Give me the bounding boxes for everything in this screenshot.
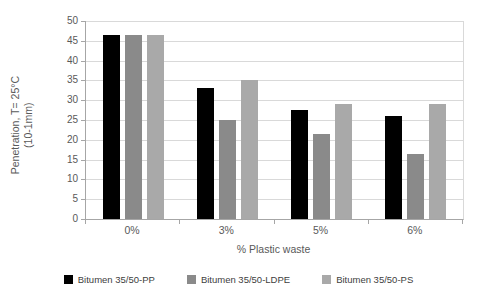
legend-label: Bitumen 35/50-PS	[336, 274, 413, 285]
legend-marker-icon	[64, 275, 73, 284]
bars-layer	[86, 21, 463, 219]
bar-Bitumen 35/50-PP-6%	[385, 116, 402, 219]
y-tick-label: 40	[44, 55, 78, 67]
legend-marker-icon	[187, 275, 196, 284]
y-tick-label: 10	[44, 173, 78, 185]
y-tick-label: 0	[44, 213, 78, 225]
legend-marker-icon	[322, 275, 331, 284]
bar-chart: Penetration, T= 25°C (10-1mm) 0510152025…	[0, 0, 477, 300]
bar-Bitumen 35/50-LDPE-6%	[407, 154, 424, 219]
legend-label: Bitumen 35/50-LDPE	[201, 274, 290, 285]
y-tick-label: 50	[44, 15, 78, 27]
y-axis-title-line2: (10-1mm)	[22, 45, 35, 205]
x-axis-category-labels: 0%3%5%6%	[85, 224, 462, 236]
y-tick-label: 35	[44, 74, 78, 86]
legend-item: Bitumen 35/50-PP	[64, 274, 155, 285]
plot-area	[85, 21, 464, 220]
bar-group-5%	[275, 21, 369, 219]
x-category-label: 6%	[368, 224, 462, 236]
bar-Bitumen 35/50-PS-3%	[241, 80, 258, 219]
bar-group-3%	[180, 21, 274, 219]
y-tick-label: 30	[44, 94, 78, 106]
y-tick-label: 25	[44, 114, 78, 126]
bar-Bitumen 35/50-PP-3%	[197, 88, 214, 219]
bar-Bitumen 35/50-PS-6%	[429, 104, 446, 219]
y-tick-label: 5	[44, 193, 78, 205]
bar-Bitumen 35/50-LDPE-0%	[125, 35, 142, 219]
x-tick-mark	[462, 220, 463, 224]
y-tick-label: 45	[44, 35, 78, 47]
y-tick-label: 20	[44, 134, 78, 146]
x-axis-title: % Plastic waste	[85, 243, 462, 255]
y-axis-title-line1: Penetration, T= 25°C	[9, 45, 22, 205]
bar-Bitumen 35/50-PP-0%	[103, 35, 120, 219]
x-category-label: 3%	[179, 224, 273, 236]
bar-group-6%	[369, 21, 463, 219]
bar-group-0%	[86, 21, 180, 219]
x-category-label: 0%	[85, 224, 179, 236]
y-tick-label: 15	[44, 154, 78, 166]
legend-item: Bitumen 35/50-LDPE	[187, 274, 290, 285]
chart-legend: Bitumen 35/50-PPBitumen 35/50-LDPEBitume…	[0, 274, 477, 285]
bar-Bitumen 35/50-PS-0%	[147, 35, 164, 219]
bar-Bitumen 35/50-PP-5%	[291, 110, 308, 219]
bar-Bitumen 35/50-LDPE-5%	[313, 134, 330, 219]
bar-Bitumen 35/50-PS-5%	[335, 104, 352, 219]
x-category-label: 5%	[274, 224, 368, 236]
y-axis-title: Penetration, T= 25°C (10-1mm)	[9, 45, 35, 205]
legend-item: Bitumen 35/50-PS	[322, 274, 413, 285]
legend-label: Bitumen 35/50-PP	[78, 274, 155, 285]
bar-Bitumen 35/50-LDPE-3%	[219, 120, 236, 219]
